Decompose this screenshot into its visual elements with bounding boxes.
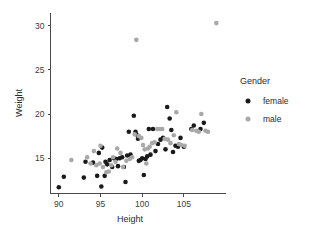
x-axis-title: Height [117, 214, 144, 224]
x-tick-label: 105 [177, 199, 191, 209]
data-point [178, 136, 183, 141]
data-point [144, 161, 149, 166]
data-point [199, 112, 204, 117]
data-point [92, 149, 97, 154]
data-point [116, 164, 121, 169]
y-tick-label: 15 [35, 153, 45, 163]
data-point [174, 110, 179, 115]
data-point [142, 173, 147, 178]
data-point [172, 133, 177, 138]
data-point [97, 161, 102, 166]
data-point [107, 169, 112, 174]
legend-title: Gender [240, 76, 270, 86]
data-point [95, 174, 100, 179]
data-point [85, 155, 90, 160]
data-point [139, 136, 144, 141]
legend-label-male[interactable]: male [263, 114, 282, 124]
data-point [167, 116, 172, 121]
data-point [163, 147, 168, 152]
series-male [69, 21, 219, 175]
data-point [141, 143, 146, 148]
data-point [151, 127, 156, 132]
data-point [169, 128, 174, 133]
data-point [168, 141, 173, 146]
y-tick-label: 25 [35, 65, 45, 75]
legend-label-female[interactable]: female [263, 96, 289, 106]
data-point [197, 129, 202, 134]
data-point [99, 184, 104, 189]
data-point [132, 114, 137, 119]
x-tick-label: 95 [96, 199, 106, 209]
chart-canvas: 152025309095100105HeightWeight Genderfem… [0, 0, 309, 237]
data-point [171, 150, 176, 155]
data-point [206, 129, 211, 134]
data-point [115, 146, 120, 151]
legend-marker-female[interactable] [246, 99, 251, 104]
data-point [118, 151, 123, 156]
data-point [111, 155, 116, 160]
data-point [182, 144, 187, 149]
data-point [88, 161, 93, 166]
data-point [134, 38, 139, 43]
data-point [214, 21, 219, 26]
data-point [192, 123, 197, 128]
legend-marker-male[interactable] [246, 117, 251, 122]
y-axis-title: Weight [14, 89, 24, 117]
data-point [152, 140, 157, 145]
data-point [165, 105, 170, 110]
data-point [202, 121, 207, 126]
data-point [62, 174, 67, 179]
scatter-plot-figure: 152025309095100105HeightWeight Genderfem… [0, 0, 309, 237]
data-point [97, 151, 102, 156]
data-point [82, 175, 87, 180]
data-point [130, 155, 135, 160]
data-point [83, 159, 88, 164]
y-tick-label: 20 [35, 109, 45, 119]
x-tick-label: 100 [135, 199, 149, 209]
data-point [132, 132, 137, 137]
y-tick-label: 30 [35, 21, 45, 31]
data-point [109, 163, 114, 168]
data-point [98, 144, 103, 149]
data-point [101, 165, 106, 170]
x-tick-label: 90 [54, 199, 64, 209]
data-point [147, 127, 152, 132]
data-point [113, 159, 118, 164]
data-point [148, 152, 153, 157]
data-points-layer [57, 21, 219, 190]
data-point [57, 185, 62, 190]
legend: Genderfemalemale [240, 76, 289, 124]
data-point [153, 149, 158, 154]
data-point [121, 165, 126, 170]
data-point [123, 180, 128, 185]
data-point [69, 158, 74, 163]
data-point [105, 162, 110, 167]
data-point [120, 155, 125, 160]
data-point [127, 129, 132, 134]
data-point [160, 127, 165, 132]
data-point [190, 128, 195, 133]
